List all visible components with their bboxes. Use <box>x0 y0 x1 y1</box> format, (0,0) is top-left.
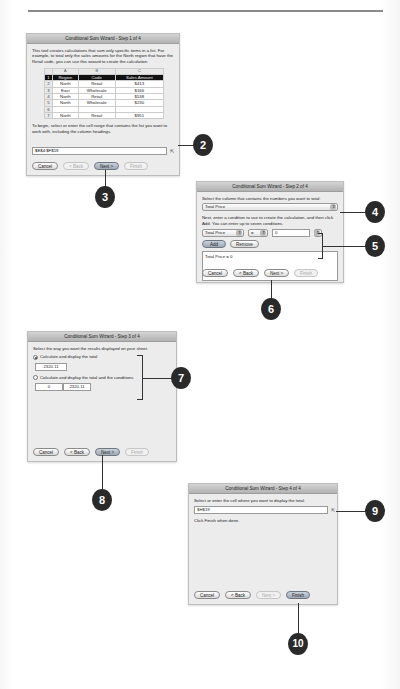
callout-8: 8 <box>92 489 112 511</box>
column-prompt: Select the column that contains the numb… <box>202 196 338 201</box>
finish-note: Click Finish when done. <box>194 518 332 523</box>
option-total[interactable]: Calculate and display the total <box>33 354 171 359</box>
callout-3: 3 <box>95 186 115 208</box>
callout-9: 9 <box>365 500 385 522</box>
callout-line <box>323 246 366 247</box>
wizard-step2-dialog: Conditional Sum Wizard - Step 2 of 4 Sel… <box>196 181 344 283</box>
callout-line <box>336 511 366 512</box>
wizard-step1-dialog: Conditional Sum Wizard - Step 1 of 4 Thi… <box>26 33 180 176</box>
finish-button[interactable]: Finish <box>286 591 310 599</box>
next-button[interactable]: Next > <box>256 591 281 599</box>
radio-selected-icon[interactable] <box>33 355 38 360</box>
finish-button[interactable]: Finish <box>125 448 149 456</box>
add-condition-button[interactable]: Add <box>202 240 226 248</box>
wizard-step3-dialog: Conditional Sum Wizard - Step 3 of 4 Sel… <box>27 331 177 462</box>
callout-line <box>143 378 173 379</box>
next-button[interactable]: Next > <box>264 269 289 277</box>
back-button[interactable]: < Back <box>225 591 251 599</box>
dialog-title: Conditional Sum Wizard - Step 2 of 4 <box>197 182 343 192</box>
callout-5: 5 <box>365 235 385 257</box>
chevron-updown-icon: ⇕ <box>330 204 336 210</box>
callout-line <box>340 212 366 213</box>
callout-line <box>298 603 299 635</box>
next-button[interactable]: Next > <box>94 162 119 170</box>
dialog-title: Conditional Sum Wizard - Step 4 of 4 <box>189 484 337 494</box>
total-value-field-2: 2320.11 <box>63 383 91 391</box>
callout-10: 10 <box>288 633 308 655</box>
back-button[interactable]: < Back <box>233 269 259 277</box>
wizard-step4-dialog: Conditional Sum Wizard - Step 4 of 4 Sel… <box>188 483 338 605</box>
callout-6: 6 <box>261 298 281 320</box>
table-row: 7 North Retail $951 <box>45 112 164 118</box>
top-rule <box>28 10 383 12</box>
condition-value-field: 0 <box>35 383 63 391</box>
cancel-button[interactable]: Cancel <box>202 269 228 277</box>
callout-line <box>102 455 103 491</box>
display-prompt: Select the way you want the results disp… <box>33 346 171 351</box>
range-picker-icon[interactable]: ⇱ <box>168 147 176 155</box>
back-button[interactable]: < Back <box>64 448 90 456</box>
callout-4: 4 <box>365 201 385 223</box>
chevron-updown-icon: ⇕ <box>260 230 266 236</box>
next-button[interactable]: Next > <box>95 448 120 456</box>
finish-button[interactable]: Finish <box>294 269 318 277</box>
callout-line <box>178 145 194 146</box>
callout-2: 2 <box>193 134 213 156</box>
total-value-field: 2320.11 <box>35 363 67 371</box>
cell-picker-icon[interactable]: ⇱ <box>329 506 337 514</box>
condition-operator-select[interactable]: = ⇕ <box>248 229 268 237</box>
dialog-title: Conditional Sum Wizard - Step 1 of 4 <box>27 34 179 44</box>
finish-button[interactable]: Finish <box>124 162 148 170</box>
cell-input[interactable]: $H$19 <box>194 506 328 514</box>
condition-column-select[interactable]: Total Price ⇕ <box>202 229 244 237</box>
callout-7: 7 <box>171 367 191 389</box>
back-button[interactable]: < Back <box>63 162 89 170</box>
list-item[interactable]: Total Price = 0 <box>205 254 335 259</box>
sample-sheet: A B C 1 Region Code Sales Amount 2 North… <box>44 68 164 119</box>
cancel-button[interactable]: Cancel <box>32 162 58 170</box>
chevron-updown-icon: ⇕ <box>236 230 242 236</box>
range-input[interactable]: $E$4:$F$19 <box>32 147 167 155</box>
intro-text: This tool creates calculations that sum … <box>32 48 174 64</box>
radio-unselected-icon[interactable] <box>33 375 38 380</box>
condition-value-input[interactable]: 0 <box>272 229 310 237</box>
cancel-button[interactable]: Cancel <box>194 591 220 599</box>
instruction-text: To begin, select or enter the cell range… <box>32 123 174 134</box>
cell-prompt: Select or enter the cell where you want … <box>194 498 332 503</box>
cancel-button[interactable]: Cancel <box>33 448 59 456</box>
dialog-title: Conditional Sum Wizard - Step 3 of 4 <box>28 332 176 342</box>
callout-line <box>271 280 272 300</box>
remove-condition-button[interactable]: Remove <box>230 240 259 248</box>
condition-prompt: Next, enter a condition to use to create… <box>202 215 338 226</box>
column-select[interactable]: Total Price ⇕ <box>202 203 338 211</box>
